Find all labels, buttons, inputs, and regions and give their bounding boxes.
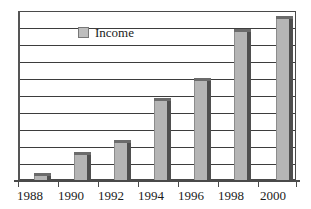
x-tick	[218, 182, 219, 187]
bar-side-shadow	[247, 32, 251, 180]
bar-side-shadow	[87, 155, 91, 180]
bar-income-1988	[34, 173, 47, 180]
bar-top-cap	[114, 140, 131, 143]
bar-top-cap	[276, 16, 293, 19]
bar-face	[234, 29, 247, 180]
bar-side-shadow	[167, 101, 171, 180]
bar-face	[74, 152, 87, 180]
bar-top-cap	[234, 29, 251, 32]
bar-side-shadow	[127, 143, 131, 180]
bar-face	[114, 140, 127, 180]
x-label-1988: 1988	[7, 188, 53, 203]
bar-face	[276, 16, 289, 180]
bar-chart: Income 1988 1990 1992 1994 1996 1998 200…	[0, 0, 311, 209]
legend-label-income: Income	[95, 26, 134, 39]
x-tick	[178, 182, 179, 187]
bar-income-2000	[276, 16, 289, 180]
bar-income-1994	[154, 98, 167, 180]
bar-face	[194, 78, 207, 180]
bar-income-1992	[114, 140, 127, 180]
bar-top-cap	[154, 98, 171, 101]
x-tick	[296, 182, 297, 187]
bar-income-1990	[74, 152, 87, 180]
bar-top-cap	[194, 78, 211, 81]
bar-side-shadow	[289, 19, 293, 180]
bar-income-1996	[194, 78, 207, 180]
x-label-2000: 2000	[250, 188, 296, 203]
plot-area	[18, 11, 296, 180]
chart-legend: Income	[78, 26, 134, 39]
legend-swatch-income	[78, 27, 89, 38]
bar-top-cap	[74, 152, 91, 155]
bar-side-shadow	[207, 81, 211, 180]
bar-income-1998	[234, 29, 247, 180]
x-tick	[18, 182, 19, 187]
x-tick	[138, 182, 139, 187]
x-tick	[98, 182, 99, 187]
x-tick	[58, 182, 59, 187]
bar-face	[154, 98, 167, 180]
bar-top-cap	[34, 173, 51, 176]
x-label-1998: 1998	[208, 188, 254, 203]
x-tick	[258, 182, 259, 187]
